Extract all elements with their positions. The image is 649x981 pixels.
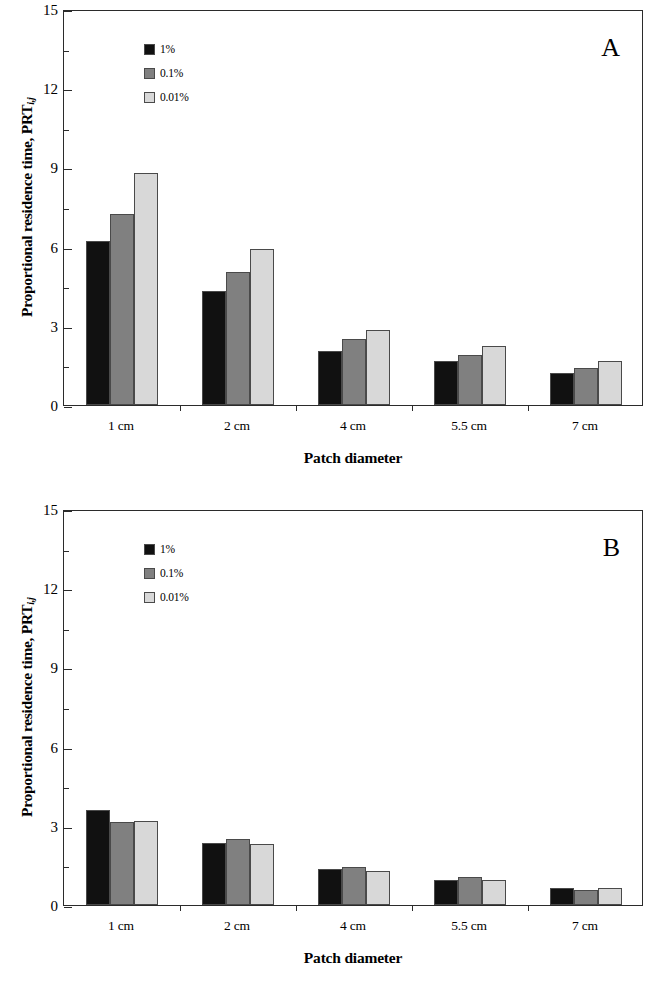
bar bbox=[434, 880, 458, 905]
plot-area-b: 1%0.1%0.01% B bbox=[63, 510, 643, 906]
bar bbox=[250, 249, 274, 405]
bar bbox=[574, 890, 598, 905]
bar bbox=[110, 822, 134, 905]
bar bbox=[318, 351, 342, 405]
x-tick-label: 4 cm bbox=[340, 418, 366, 434]
legend-label: 1% bbox=[160, 43, 175, 55]
y-axis-tick bbox=[64, 90, 72, 91]
y-tick-label: 9 bbox=[18, 661, 58, 676]
panel-letter-b: B bbox=[603, 533, 620, 563]
bar bbox=[86, 241, 110, 405]
x-tick-label: 2 cm bbox=[224, 918, 250, 934]
bar bbox=[110, 214, 134, 405]
bar bbox=[434, 361, 458, 405]
x-axis-title: Patch diameter bbox=[63, 449, 643, 467]
bar bbox=[226, 272, 250, 405]
x-tick-label: 5.5 cm bbox=[451, 918, 487, 934]
y-axis-minor-tick bbox=[64, 130, 69, 131]
legend-swatch-icon bbox=[144, 92, 155, 103]
bar bbox=[458, 355, 482, 405]
legend-a: 1%0.1%0.01% bbox=[144, 37, 189, 109]
x-axis-tick-labels: 1 cm2 cm4 cm5.5 cm7 cm bbox=[63, 918, 643, 938]
y-tick-label: 6 bbox=[18, 740, 58, 755]
legend-swatch-icon bbox=[144, 568, 155, 579]
legend-item: 0.1% bbox=[144, 61, 189, 85]
x-axis-tick bbox=[412, 405, 413, 411]
y-tick-label: 12 bbox=[18, 82, 58, 97]
bar bbox=[574, 368, 598, 405]
y-axis-tick bbox=[64, 749, 72, 750]
legend-swatch-icon bbox=[144, 592, 155, 603]
bar bbox=[86, 810, 110, 905]
x-axis-tick bbox=[528, 405, 529, 411]
x-tick-label: 5.5 cm bbox=[451, 418, 487, 434]
bar bbox=[202, 291, 226, 405]
x-tick-label: 2 cm bbox=[224, 418, 250, 434]
y-axis-minor-tick bbox=[64, 788, 69, 789]
x-axis-tick bbox=[180, 905, 181, 911]
chart-panel-a: Proportional residence time, PRTi,j 0369… bbox=[0, 0, 649, 470]
x-axis-tick bbox=[296, 405, 297, 411]
legend-label: 0.1% bbox=[160, 567, 183, 579]
legend-swatch-icon bbox=[144, 544, 155, 555]
figure-sheet: Proportional residence time, PRTi,j 0369… bbox=[0, 0, 649, 981]
y-axis-tick bbox=[64, 169, 72, 170]
y-tick-label: 6 bbox=[18, 240, 58, 255]
x-axis-title: Patch diameter bbox=[63, 949, 643, 967]
legend-label: 0.01% bbox=[160, 91, 189, 103]
bar bbox=[550, 373, 574, 405]
legend-swatch-icon bbox=[144, 44, 155, 55]
legend-item: 0.01% bbox=[144, 585, 189, 609]
chart-panel-b: Proportional residence time, PRTi,j 0369… bbox=[0, 500, 649, 970]
bar bbox=[226, 839, 250, 905]
x-tick-label: 1 cm bbox=[108, 418, 134, 434]
panel-letter-a: A bbox=[601, 33, 620, 63]
legend-label: 0.01% bbox=[160, 591, 189, 603]
y-axis-minor-tick bbox=[64, 288, 69, 289]
legend-label: 1% bbox=[160, 543, 175, 555]
y-axis-minor-tick bbox=[64, 551, 69, 552]
legend-item: 1% bbox=[144, 537, 189, 561]
y-tick-label: 9 bbox=[18, 161, 58, 176]
y-axis-tick bbox=[64, 907, 72, 908]
x-axis-tick bbox=[296, 905, 297, 911]
legend-item: 0.01% bbox=[144, 85, 189, 109]
y-tick-label: 3 bbox=[18, 319, 58, 334]
bar bbox=[342, 867, 366, 905]
y-axis-tick bbox=[64, 669, 72, 670]
x-tick-label: 4 cm bbox=[340, 918, 366, 934]
x-axis-tick bbox=[180, 405, 181, 411]
y-axis-minor-tick bbox=[64, 51, 69, 52]
x-tick-label: 7 cm bbox=[572, 418, 598, 434]
x-axis-tick bbox=[528, 905, 529, 911]
y-axis-minor-tick bbox=[64, 709, 69, 710]
y-axis-minor-tick bbox=[64, 867, 69, 868]
y-axis-tick-labels: 03691215 bbox=[18, 500, 58, 906]
y-axis-minor-tick bbox=[64, 367, 69, 368]
bar bbox=[482, 346, 506, 405]
bar bbox=[342, 339, 366, 405]
y-axis-tick bbox=[64, 407, 72, 408]
bar bbox=[318, 869, 342, 905]
y-axis-minor-tick bbox=[64, 209, 69, 210]
x-tick-label: 1 cm bbox=[108, 918, 134, 934]
y-axis-tick bbox=[64, 511, 72, 512]
bar bbox=[366, 330, 390, 405]
bar bbox=[134, 173, 158, 405]
y-axis-tick bbox=[64, 11, 72, 12]
legend-swatch-icon bbox=[144, 68, 155, 79]
y-axis-tick bbox=[64, 249, 72, 250]
y-axis-tick bbox=[64, 328, 72, 329]
bar bbox=[598, 888, 622, 905]
bar bbox=[458, 877, 482, 905]
legend-label: 0.1% bbox=[160, 67, 183, 79]
bar bbox=[598, 361, 622, 405]
x-axis-tick bbox=[412, 905, 413, 911]
legend-item: 1% bbox=[144, 37, 189, 61]
y-tick-label: 15 bbox=[18, 3, 58, 18]
y-tick-label: 3 bbox=[18, 819, 58, 834]
y-tick-label: 12 bbox=[18, 582, 58, 597]
bar bbox=[550, 888, 574, 905]
legend-b: 1%0.1%0.01% bbox=[144, 537, 189, 609]
bar bbox=[366, 871, 390, 905]
